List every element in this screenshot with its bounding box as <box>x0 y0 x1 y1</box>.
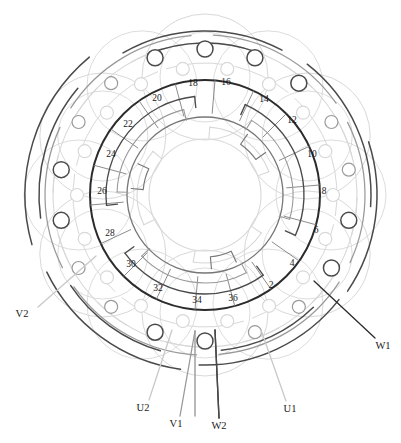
coil-step-leg <box>153 151 161 158</box>
phase-lead-node <box>53 162 69 178</box>
slot-number: 26 <box>97 186 107 196</box>
slot-number: 10 <box>307 149 317 159</box>
slot-number: 36 <box>228 293 238 303</box>
terminal-node <box>327 189 340 202</box>
slot-number: 12 <box>287 115 297 125</box>
coil-arc-segment <box>210 127 269 172</box>
slot-number: 8 <box>322 186 327 196</box>
slot-number: 30 <box>126 259 136 269</box>
terminal-node <box>297 106 310 119</box>
terminal-node <box>105 300 118 313</box>
coil-step-leg <box>209 127 210 138</box>
phase-lead-node <box>197 333 213 349</box>
phase-lead-node <box>341 212 357 228</box>
terminal-node <box>72 116 85 129</box>
phase-lead-node <box>247 50 263 66</box>
terminal-node <box>263 78 276 91</box>
terminal-node <box>221 315 234 328</box>
terminal-node <box>78 145 91 158</box>
stator-winding-diagram: 24681012141618202224262830323436V2W1U2V1… <box>0 0 401 443</box>
terminal-node <box>176 62 189 75</box>
terminal-node <box>105 77 118 90</box>
slot-number: 32 <box>153 283 163 293</box>
slot-number: 24 <box>106 149 116 159</box>
slot-divider-tick <box>272 242 299 261</box>
terminal-node <box>342 163 355 176</box>
coil-arc-segment <box>106 97 195 206</box>
terminal-node <box>100 271 113 284</box>
phase-u-endwinding-group <box>45 35 365 355</box>
phase-v-endwinding-arc-short <box>331 156 337 215</box>
terminal-node <box>78 232 91 245</box>
coil-step-leg <box>259 172 269 176</box>
terminal-node <box>71 189 84 202</box>
rotor-bore-circle <box>149 139 261 251</box>
phase-label-v1: V1 <box>170 418 183 429</box>
coil-step-leg <box>107 204 118 205</box>
phase-label-w1: W1 <box>375 340 390 351</box>
slot-number: 34 <box>192 295 202 305</box>
terminal-node <box>263 299 276 312</box>
slot-number: 22 <box>123 119 133 129</box>
phase-v-endwinding-arc-short <box>73 174 79 233</box>
phase-lead-node <box>53 212 69 228</box>
bottom-lead-line <box>215 330 219 418</box>
phase-lead-node <box>197 41 213 57</box>
phase-label-u1: U1 <box>284 403 297 414</box>
phase-lead-node <box>291 75 307 91</box>
terminal-node <box>297 271 310 284</box>
terminal-node <box>135 78 148 91</box>
background-lobe-circle <box>40 191 166 317</box>
slot-number: 2 <box>269 280 274 290</box>
background-lobe-circle <box>40 73 166 199</box>
terminal-node <box>176 315 189 328</box>
terminal-node <box>100 106 113 119</box>
terminal-node <box>319 145 332 158</box>
terminal-node <box>248 326 261 339</box>
figure-canvas: 24681012141618202224262830323436V2W1U2V1… <box>0 0 401 443</box>
background-lobe-circle <box>244 191 370 317</box>
coil-step-leg <box>252 227 261 233</box>
terminal-node <box>221 62 234 75</box>
background-lobe-circle <box>244 73 370 199</box>
slot-number: 20 <box>152 93 162 103</box>
slot-number: 14 <box>259 94 269 104</box>
phase-label-w2: W2 <box>211 420 226 431</box>
coil-step-leg <box>144 220 154 225</box>
phase-label-u2: U2 <box>137 402 150 413</box>
background-lobe-circle <box>142 14 268 140</box>
terminal-node <box>319 232 332 245</box>
background-lobe-circle <box>142 250 268 376</box>
phase-lead-line <box>180 331 195 416</box>
coil-notch-group <box>131 134 265 268</box>
coil-step-leg <box>184 110 187 121</box>
phase-lead-line <box>261 330 286 401</box>
coil-step-leg <box>193 251 195 262</box>
phase-label-v2: V2 <box>16 308 29 319</box>
slot-number: 18 <box>188 78 198 88</box>
slot-number: 28 <box>105 228 115 238</box>
phase-lead-node <box>147 50 163 66</box>
slot-number: 6 <box>314 225 319 235</box>
phase-lead-node <box>323 260 339 276</box>
coil-arc-segment <box>252 120 293 219</box>
phase-lead-node <box>147 324 163 340</box>
terminal-node <box>135 299 148 312</box>
terminal-node <box>325 116 338 129</box>
terminal-node <box>292 300 305 313</box>
slot-number: 4 <box>290 258 295 268</box>
slot-number: 16 <box>221 77 231 87</box>
